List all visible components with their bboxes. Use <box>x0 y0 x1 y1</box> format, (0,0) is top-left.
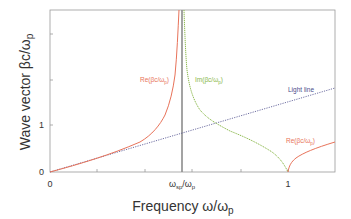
x-tick-1: 1 <box>285 179 290 189</box>
y-tick-1: 1 <box>39 120 44 130</box>
annotation-light-line: Light line <box>288 86 314 94</box>
x-tick-0: 0 <box>47 179 52 189</box>
dispersion-chart: 0 1 0 ωsp/ωp 1 Frequency ω/ωp Wave vecto… <box>0 0 351 219</box>
x-axis-ticks <box>97 169 288 172</box>
re-lower-branch-curve <box>50 10 179 172</box>
y-axis-title: Wave vector βc/ωp <box>17 33 35 150</box>
y-axis-ticks <box>50 34 53 125</box>
y-tick-0: 0 <box>39 167 44 177</box>
annotation-im: Im(βc/ωp) <box>195 76 223 85</box>
im-branch-curve <box>184 10 288 172</box>
x-axis-title: Frequency ω/ωp <box>132 198 234 216</box>
x-tick-omega-sp: ωsp/ωp <box>169 179 196 190</box>
re-upper-branch-curve <box>288 142 335 172</box>
annotation-re-upper: Re(βc/ωp) <box>286 137 315 146</box>
annotation-re-lower: Re(βc/ωp) <box>140 76 169 85</box>
